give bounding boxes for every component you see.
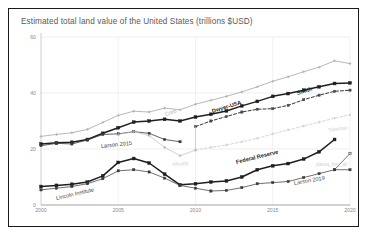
y-axis-tick-40: 40	[20, 90, 36, 96]
series-label-places-hwy-all: places_hwy_all	[316, 162, 347, 167]
x-axis-tick-2000: 2000	[28, 207, 54, 213]
y-axis-tick-20: 20	[20, 146, 36, 152]
x-axis-tick-2015: 2015	[260, 207, 286, 213]
x-axis-tick-2005: 2005	[105, 207, 131, 213]
x-axis-tick-2010: 2010	[183, 207, 209, 213]
chart-frame: Estimated total land value of the United…	[8, 8, 359, 227]
x-axis-tick-2020: 2020	[337, 207, 363, 213]
y-axis-tick-60: 60	[20, 34, 36, 40]
